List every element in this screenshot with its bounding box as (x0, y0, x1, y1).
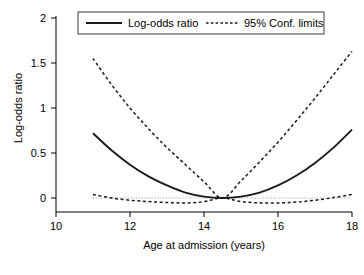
y-tick-label-0-5: 0.5 (31, 147, 46, 159)
y-axis-title: Log-odds ratio (12, 73, 24, 143)
x-tick-label-16: 16 (272, 220, 284, 232)
plot-background (0, 0, 364, 275)
chart-figure: 2 1.5 1 0.5 0 Log-odds ratio 10 12 14 16… (0, 0, 364, 275)
legend-label-log-odds-ratio: Log-odds ratio (128, 17, 198, 29)
y-tick-label-0: 0 (40, 192, 46, 204)
x-axis-title: Age at admission (years) (143, 239, 265, 251)
x-tick-label-12: 12 (124, 220, 136, 232)
x-tick-label-18: 18 (346, 220, 358, 232)
legend: Log-odds ratio 95% Conf. limits (78, 12, 324, 34)
x-tick-label-14: 14 (198, 220, 210, 232)
chart-canvas: 2 1.5 1 0.5 0 Log-odds ratio 10 12 14 16… (0, 0, 364, 275)
legend-label-conf-limits: 95% Conf. limits (244, 17, 324, 29)
y-tick-label-1: 1 (40, 102, 46, 114)
y-tick-label-1-5: 1.5 (31, 57, 46, 69)
x-tick-label-10: 10 (50, 220, 62, 232)
y-tick-label-2: 2 (40, 12, 46, 24)
